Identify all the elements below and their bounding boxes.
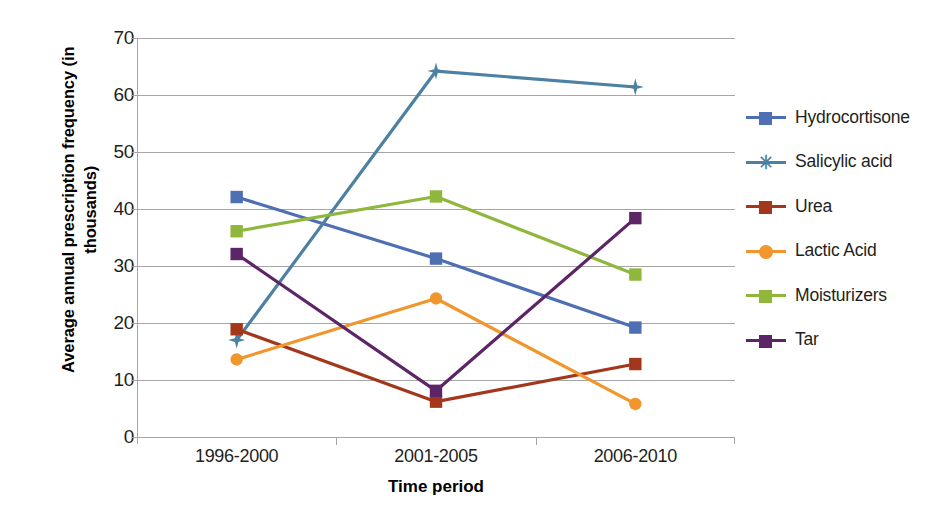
legend-marker-icon xyxy=(746,243,786,259)
data-point-square xyxy=(629,321,641,333)
data-point-circle xyxy=(430,292,442,304)
legend-item-moisturizers[interactable]: Moisturizers xyxy=(746,273,936,318)
legend-circle-icon xyxy=(759,245,773,259)
plot-area xyxy=(137,38,735,437)
series-hydrocortisone xyxy=(230,191,641,334)
legend-square-icon xyxy=(759,290,772,303)
legend-marker-icon xyxy=(746,198,786,214)
x-axis-title: Time period xyxy=(137,477,735,497)
legend-item-hydrocortisone[interactable]: Hydrocortisone xyxy=(746,95,936,140)
data-series-layer xyxy=(137,38,735,437)
y-axis-tick-label: 40 xyxy=(90,198,134,220)
legend-label: Urea xyxy=(795,196,832,217)
legend-marker-icon: ✳ xyxy=(746,154,786,170)
x-axis-tick-label: 2001-2005 xyxy=(336,446,536,467)
data-point-square xyxy=(230,248,242,260)
data-point-square xyxy=(230,225,242,237)
y-axis-tick-label: 60 xyxy=(90,84,134,106)
legend-item-salicylic-acid[interactable]: ✳Salicylic acid xyxy=(746,140,936,185)
data-point-square xyxy=(230,323,242,335)
data-point-square xyxy=(230,191,242,203)
x-axis-tick xyxy=(336,437,337,445)
legend-label: Salicylic acid xyxy=(795,151,892,172)
data-point-circle xyxy=(629,398,641,410)
legend-star-icon: ✳ xyxy=(758,155,774,171)
legend-marker-icon xyxy=(746,332,786,348)
data-point-square xyxy=(430,395,442,407)
data-point-square xyxy=(430,252,442,264)
legend-label: Hydrocortisone xyxy=(795,107,910,128)
legend-square-icon xyxy=(759,112,772,125)
legend-item-urea[interactable]: Urea xyxy=(746,184,936,229)
legend-label: Moisturizers xyxy=(795,285,887,306)
data-point-circle xyxy=(230,353,242,365)
data-point-square xyxy=(430,385,442,397)
data-point-square xyxy=(629,212,641,224)
x-axis-tick-label: 2006-2010 xyxy=(535,446,735,467)
y-axis-title-line-1: Average annual prescription frequency (i… xyxy=(58,0,80,420)
y-axis-tick-label: 0 xyxy=(90,426,134,448)
legend-marker-icon xyxy=(746,287,786,303)
x-axis-start-tick xyxy=(137,437,138,444)
y-axis-tick-label: 10 xyxy=(90,369,134,391)
legend-marker-icon xyxy=(746,109,786,125)
legend-square-icon xyxy=(759,335,772,348)
series-salicylic-acid xyxy=(228,63,644,349)
x-axis-tick-label: 1996-2000 xyxy=(137,446,337,467)
x-axis-tick xyxy=(536,437,537,445)
y-axis-tick-label: 50 xyxy=(90,141,134,163)
legend-label: Lactic Acid xyxy=(795,240,876,261)
x-axis-end-tick xyxy=(734,437,735,444)
data-point-square xyxy=(629,358,641,370)
data-point-square xyxy=(629,268,641,280)
data-point-square xyxy=(430,190,442,202)
chart-legend: Hydrocortisone✳Salicylic acidUreaLactic … xyxy=(746,95,936,362)
legend-label: Tar xyxy=(795,329,819,350)
legend-square-icon xyxy=(759,201,772,214)
gridline xyxy=(137,437,735,438)
legend-item-lactic-acid[interactable]: Lactic Acid xyxy=(746,229,936,274)
data-point-star xyxy=(627,79,644,96)
chart-container: Average annual prescription frequency (i… xyxy=(0,0,939,525)
y-axis-tick-label: 70 xyxy=(90,27,134,49)
y-axis-tick-label: 20 xyxy=(90,312,134,334)
legend-item-tar[interactable]: Tar xyxy=(746,318,936,363)
y-axis-tick-labels: 010203040506070 xyxy=(88,0,134,525)
y-axis-tick-label: 30 xyxy=(90,255,134,277)
